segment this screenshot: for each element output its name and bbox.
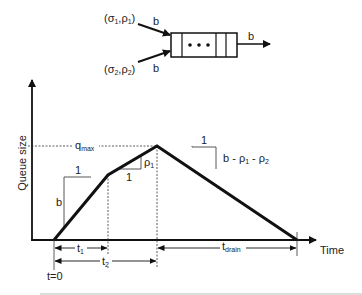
slope2-rise: ρ1 (144, 156, 154, 169)
input-2-rate: b (153, 62, 159, 74)
input-1-label: (σ1,ρ1) (104, 12, 135, 25)
t0-label: t=0 (47, 270, 63, 282)
queue-diagram: (σ1,ρ1) b (σ2,ρ2) b b Queue size Time qm… (0, 0, 362, 295)
x-axis-label: Time (320, 244, 344, 256)
slope2-run: 1 (126, 171, 132, 183)
slope3-run: 1 (201, 134, 207, 146)
t1-interval: t1 (55, 242, 107, 255)
input-arrow-2 (138, 51, 170, 62)
output-rate: b (248, 30, 254, 42)
input-1-rate: b (153, 15, 159, 27)
axes: Queue size Time (16, 80, 344, 256)
t2-interval: t2 (55, 255, 156, 268)
slope-triangle-3: 1 b - ρ1 - ρ2 (192, 134, 269, 169)
slope3-rise: b - ρ1 - ρ2 (223, 152, 269, 165)
input-flow-2: (σ2,ρ2) b (104, 51, 170, 76)
queue-system: (σ1,ρ1) b (σ2,ρ2) b b (104, 12, 270, 76)
slope1-rise: b (56, 196, 62, 208)
input-flow-1: (σ1,ρ1) b (104, 12, 170, 35)
input-2-label: (σ2,ρ2) (104, 63, 135, 76)
y-axis-label: Queue size (16, 135, 28, 191)
slope1-run: 1 (75, 164, 81, 176)
tdrain-interval: tdrain (158, 240, 296, 254)
buffer-box (171, 33, 237, 57)
